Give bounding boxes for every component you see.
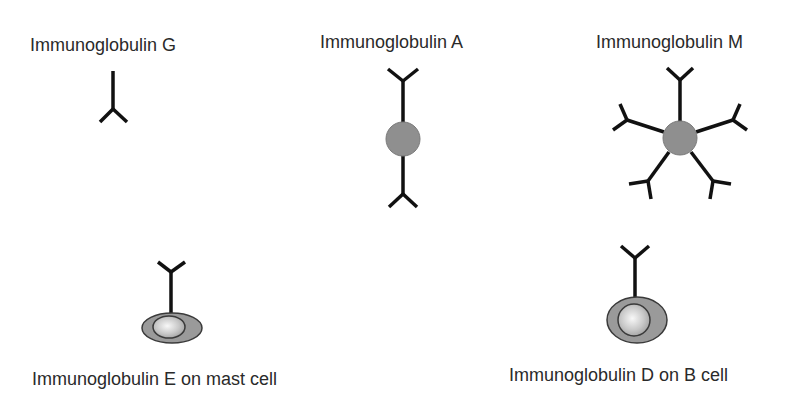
- igd-b-cell-icon: [607, 246, 667, 343]
- ige-mast-cell-icon: [142, 262, 202, 343]
- igg-antibody-icon: [100, 71, 127, 122]
- diagram-graphics: [0, 0, 786, 414]
- iga-dimer-icon: [386, 69, 420, 207]
- igm-pentamer-icon: [613, 68, 747, 199]
- immunoglobulin-diagram: Immunoglobulin G Immunoglobulin A Immuno…: [0, 0, 786, 414]
